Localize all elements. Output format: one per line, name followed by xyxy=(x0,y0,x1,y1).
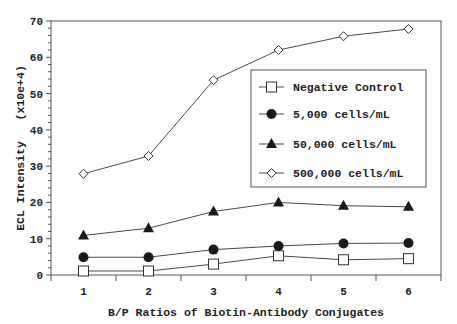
x-axis-title: B/P Ratios of Biotin-Antibody Conjugates xyxy=(108,306,384,319)
legend-label: 50,000 cells/mL xyxy=(293,138,397,151)
data-point xyxy=(338,200,349,210)
data-point xyxy=(273,196,284,206)
line-chart: 010203040506070123456 Negative Control 5… xyxy=(0,0,457,324)
series-filled-circle xyxy=(79,238,414,262)
x-tick-label: 4 xyxy=(275,286,282,298)
y-tick-label: 30 xyxy=(30,161,43,173)
series-line xyxy=(84,256,409,271)
data-point xyxy=(403,201,414,211)
series-line xyxy=(84,202,409,235)
data-point xyxy=(79,169,88,178)
data-point xyxy=(274,46,283,55)
y-tick-label: 70 xyxy=(30,16,43,28)
legend-label: Negative Control xyxy=(293,81,404,94)
data-point xyxy=(209,259,219,269)
y-tick-label: 60 xyxy=(30,52,43,64)
x-tick-label: 5 xyxy=(340,286,347,298)
data-point xyxy=(144,252,154,262)
x-tick-label: 3 xyxy=(210,286,217,298)
data-point xyxy=(79,252,89,262)
series-line xyxy=(84,243,409,257)
legend-label: 500,000 cells/mL xyxy=(293,167,404,180)
x-tick-label: 2 xyxy=(145,286,152,298)
x-tick-label: 6 xyxy=(405,286,412,298)
y-tick-label: 10 xyxy=(30,234,43,246)
data-point xyxy=(144,266,154,276)
open-square-icon xyxy=(267,82,277,92)
filled-circle-icon xyxy=(267,109,277,119)
series-filled-triangle xyxy=(78,196,414,239)
data-point xyxy=(339,255,349,265)
data-point xyxy=(404,24,413,33)
y-tick-label: 40 xyxy=(30,125,43,137)
data-point xyxy=(339,32,348,41)
data-point xyxy=(274,241,284,251)
data-point xyxy=(404,254,414,264)
data-point xyxy=(79,266,89,276)
data-point xyxy=(404,238,414,248)
x-tick-label: 1 xyxy=(80,286,87,298)
series-open-square xyxy=(79,251,414,276)
y-axis-title: ECL Intensity (x10e+4) xyxy=(14,65,27,231)
data-point xyxy=(78,229,89,239)
y-tick-label: 0 xyxy=(36,270,43,282)
data-point xyxy=(339,238,349,248)
legend: Negative Control 5,000 cells/mL 50,000 c… xyxy=(251,70,426,187)
legend-label: 5,000 cells/mL xyxy=(293,108,390,121)
y-tick-label: 50 xyxy=(30,89,43,101)
data-point xyxy=(209,245,219,255)
y-tick-label: 20 xyxy=(30,197,43,209)
data-point xyxy=(274,251,284,261)
